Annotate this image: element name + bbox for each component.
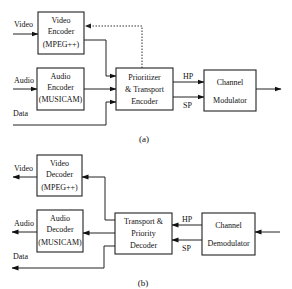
- svg-text:Prioritizer: Prioritizer: [128, 73, 161, 82]
- svg-text:(MUSICAM): (MUSICAM): [38, 238, 82, 247]
- svg-text:Decoder: Decoder: [46, 225, 73, 234]
- svg-text:Priority: Priority: [131, 229, 155, 238]
- svg-text:Video: Video: [51, 16, 70, 25]
- svg-text:Audio: Audio: [50, 214, 70, 223]
- svg-text:Demodulator: Demodulator: [207, 239, 250, 248]
- svg-text:Encoder: Encoder: [131, 97, 158, 106]
- figure-a-encoder: Video Audio Data Video Encoder (MPEG++) …: [13, 12, 281, 144]
- audio-decoder-block: Audio Decoder (MUSICAM): [37, 210, 83, 252]
- svg-text:(MPEG++): (MPEG++): [41, 183, 78, 192]
- audio-input-label: Audio: [14, 76, 34, 85]
- svg-text:Decoder: Decoder: [130, 241, 157, 250]
- svg-text:Channel: Channel: [217, 78, 244, 87]
- svg-text:Video: Video: [50, 159, 69, 168]
- channel-demodulator-block: Channel Demodulator: [202, 213, 255, 255]
- svg-text:Decoder: Decoder: [46, 170, 73, 179]
- svg-text:Channel: Channel: [215, 221, 242, 230]
- svg-text:& Transport: & Transport: [125, 85, 165, 94]
- svg-text:Audio: Audio: [51, 72, 71, 81]
- feedback-arrowhead-icon: [85, 24, 91, 29]
- sp-label: SP: [183, 101, 192, 110]
- svg-text:Transport &: Transport &: [124, 217, 164, 226]
- hp-label: HP: [183, 72, 194, 81]
- svg-text:Encoder: Encoder: [48, 27, 75, 36]
- video-output-label: Video: [14, 164, 33, 173]
- caption-b: (b): [138, 278, 149, 288]
- figure-b-decoder: Video Audio Data Video Decoder (MPEG++) …: [12, 155, 280, 288]
- sp-label-b: SP: [182, 244, 191, 253]
- caption-a: (a): [139, 134, 149, 144]
- prioritizer-transport-encoder-block: Prioritizer & Transport Encoder: [116, 68, 173, 110]
- audio-output-label: Audio: [14, 219, 34, 228]
- data-output-label: Data: [13, 252, 29, 261]
- svg-text:(MUSICAM): (MUSICAM): [39, 95, 83, 104]
- data-input-label: Data: [13, 109, 29, 118]
- hp-label-b: HP: [182, 215, 193, 224]
- video-input-label: Video: [14, 20, 33, 29]
- audio-encoder-block: Audio Encoder (MUSICAM): [37, 68, 84, 110]
- svg-text:(MPEG++): (MPEG++): [43, 40, 80, 49]
- transport-priority-decoder-block: Transport & Priority Decoder: [115, 213, 172, 254]
- video-encoder-output-arrow: [84, 40, 116, 76]
- svg-text:Encoder: Encoder: [47, 83, 74, 92]
- block-diagram: Video Audio Data Video Encoder (MPEG++) …: [0, 0, 292, 289]
- channel-modulator-block: Channel Modulator: [204, 70, 256, 111]
- video-encoder-block: Video Encoder (MPEG++): [38, 12, 84, 54]
- feedback-dotted-line: [86, 26, 142, 68]
- video-decoder-block: Video Decoder (MPEG++): [37, 155, 82, 196]
- video-decoder-input-arrow: [82, 177, 115, 220]
- svg-text:Modulator: Modulator: [213, 96, 247, 105]
